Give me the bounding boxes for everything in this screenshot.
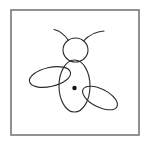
picture-border <box>11 10 139 135</box>
body-center-dot <box>72 86 76 90</box>
line-drawing <box>0 0 150 144</box>
image-canvas <box>0 0 150 144</box>
